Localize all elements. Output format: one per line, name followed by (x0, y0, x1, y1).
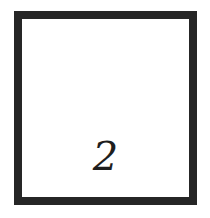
card-number: 2 (22, 136, 189, 176)
canvas: 2 (0, 0, 210, 218)
number-card: 2 (14, 11, 197, 205)
